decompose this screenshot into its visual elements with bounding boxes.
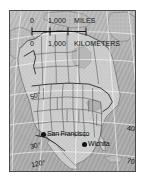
scale-ruler-graphic [31,27,87,36]
scale-kilometers-zero: 0 [30,38,34,49]
scale-bar-miles-row: 0 1,000 MILES [27,15,133,26]
city-label-san-francisco: San Francisco [47,130,89,137]
scale-miles-unit: MILES [74,15,96,26]
scale-bar: 0 1,000 MILES 0 1,000 KILOMETERS [27,15,133,49]
city-dot-icon [41,132,46,137]
graticule-label-lat-40: 40° [127,124,136,133]
city-label-wichita: Wichita [88,140,110,147]
map-frame: 0 1,000 MILES 0 1,000 KILOMETERS 50° 30°… [9,10,136,172]
map-figure: 0 1,000 MILES 0 1,000 KILOMETERS 50° 30°… [0,0,146,186]
city-dot-icon [82,142,87,147]
scale-kilometers-unit: KILOMETERS [74,38,120,49]
scale-bar-kilometers-row: 0 1,000 KILOMETERS [27,38,133,49]
scale-kilometers-value: 1,000 [48,38,66,49]
landmass-caribbean [104,155,122,162]
scale-miles-value: 1,000 [48,15,66,26]
graticule-label-lon-90: 90° [83,170,94,172]
scale-miles-zero: 0 [30,15,34,26]
